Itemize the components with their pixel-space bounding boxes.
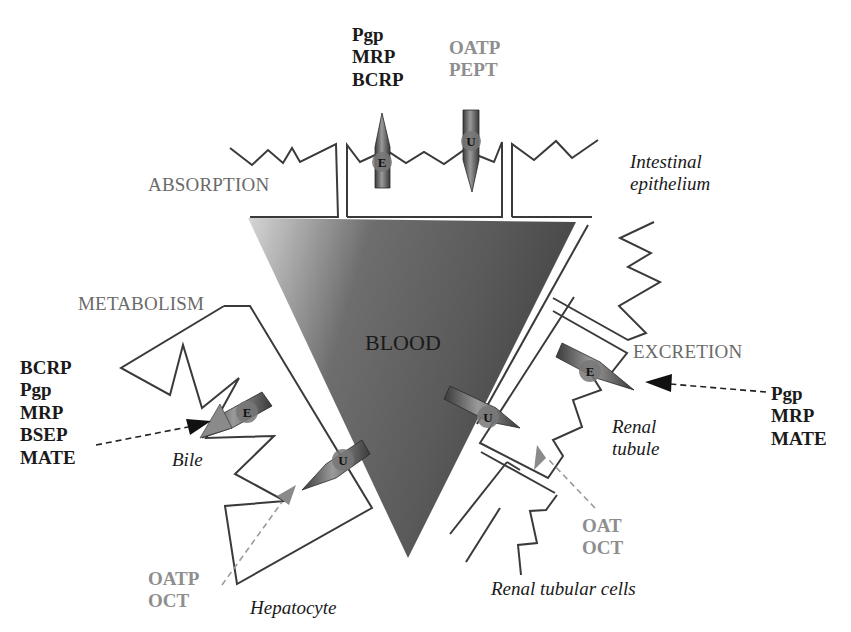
transporter-name: Pgp <box>20 379 76 401</box>
transporter-name: MATE <box>20 447 76 469</box>
transporter-name: OAT <box>582 515 623 537</box>
uptake-marker: U <box>466 134 476 149</box>
intestine-efflux-transporter <box>372 113 392 188</box>
intestine-uptake-transporters: OATP PEPT <box>449 37 500 82</box>
transporter-name: Pgp <box>771 383 827 405</box>
transporter-name: OATP <box>148 568 199 590</box>
uptake-marker: U <box>338 453 348 468</box>
liver-uptake-transporters: OATP OCT <box>148 568 199 613</box>
hepatocyte-label: Hepatocyte <box>250 597 337 619</box>
uptake-marker: U <box>483 410 493 425</box>
efflux-marker: E <box>586 364 595 379</box>
intestinal-epithelium <box>230 140 598 217</box>
transporter-name: BCRP <box>352 69 404 91</box>
renal-tubule-label-line2: tubule <box>612 438 660 460</box>
intestine-efflux-transporters: Pgp MRP BCRP <box>352 24 404 91</box>
blood-label: BLOOD <box>365 330 441 356</box>
intestinal-label-line1: Intestinal <box>630 151 710 173</box>
transporter-name: MRP <box>771 405 827 427</box>
transporter-name: MRP <box>20 402 76 424</box>
arrow-liver-efflux <box>96 419 211 445</box>
intestine-uptake-transporter <box>461 110 481 192</box>
transporter-name: PEPT <box>449 59 500 81</box>
excretion-label: EXCRETION <box>633 341 742 363</box>
pharmacokinetics-diagram: E U E U U E <box>0 0 851 632</box>
absorption-label: ABSORPTION <box>148 174 269 196</box>
transporter-name: BCRP <box>20 357 76 379</box>
metabolism-label: METABOLISM <box>78 293 204 315</box>
arrow-kidney-efflux <box>645 374 766 392</box>
renal-tubule-label: Renal tubule <box>612 416 660 461</box>
intestinal-epithelium-label: Intestinal epithelium <box>630 151 710 196</box>
liver-efflux-transporters: BCRP Pgp MRP BSEP MATE <box>20 357 76 469</box>
arrow-liver-uptake <box>222 485 296 585</box>
efflux-marker: E <box>378 155 387 170</box>
bile-label: Bile <box>172 449 203 471</box>
efflux-marker: E <box>243 405 252 420</box>
kidney-efflux-transporters: Pgp MRP MATE <box>771 383 827 450</box>
transporter-name: OATP <box>449 37 500 59</box>
transporter-name: Pgp <box>352 24 404 46</box>
intestinal-label-line2: epithelium <box>630 173 710 195</box>
transporter-name: BSEP <box>20 424 76 446</box>
transporter-name: MATE <box>771 428 827 450</box>
transporter-name: OCT <box>582 537 623 559</box>
renal-tubule-label-line1: Renal <box>612 416 660 438</box>
transporter-name: MRP <box>352 46 404 68</box>
blood-compartment <box>248 218 576 558</box>
transporter-name: OCT <box>148 590 199 612</box>
liver-efflux-transporter <box>200 392 272 438</box>
kidney-uptake-transporters: OAT OCT <box>582 515 623 560</box>
renal-tubular-cells-label: Renal tubular cells <box>491 578 636 600</box>
